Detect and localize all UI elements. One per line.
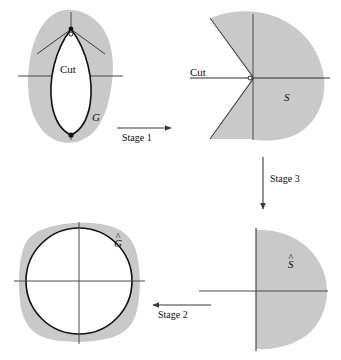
region-shat-set-label: ^ S: [288, 258, 294, 270]
region-s-set-label: S: [284, 91, 290, 103]
region-s-cut-label: Cut: [190, 66, 206, 78]
region-g-set-label: G: [92, 111, 100, 123]
arrow-stage-3-label: Stage 3: [270, 173, 300, 184]
region-shat-shade: [256, 230, 327, 349]
ghat-accent: ^: [116, 232, 121, 242]
arrow-stage-2-label: Stage 2: [158, 309, 188, 320]
shat-accent: ^: [288, 253, 293, 263]
region-s-shade: [211, 11, 324, 140]
panel-region-shat: [199, 228, 328, 351]
region-s-origin: [248, 76, 252, 80]
region-ghat-set-label: ^ G: [114, 237, 122, 249]
region-g-top-vertex-hole: [69, 32, 73, 36]
region-g-cut-label: Cut: [60, 63, 76, 75]
region-g-top-vertex: [69, 27, 74, 32]
panel-region-s: [190, 11, 330, 140]
panel-region-ghat: [14, 222, 145, 344]
arrow-stage-1-label: Stage 1: [122, 132, 152, 143]
region-g-bottom-vertex: [68, 132, 73, 137]
panel-region-g: [18, 10, 123, 143]
